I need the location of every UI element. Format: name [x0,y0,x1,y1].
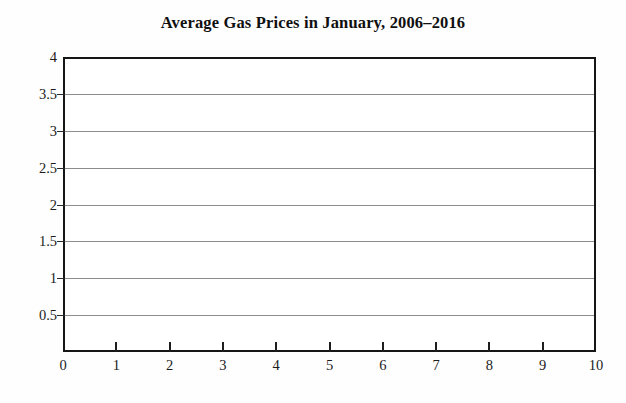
x-axis-tick [115,342,117,352]
x-axis-tick [222,342,224,352]
x-axis-labels: 12345678910 [0,358,626,386]
data-series-layer [65,59,594,350]
y-axis-labels: 43.532.521.510.5 [0,0,57,403]
y-axis-tick-label: 0.5 [7,308,57,323]
y-axis-tick-label: 1 [7,271,57,286]
x-axis-tick-label: 8 [469,358,509,373]
x-axis-tick-label: 7 [416,358,456,373]
y-axis-tick-label: 2.5 [7,161,57,176]
x-axis-tick [382,342,384,352]
x-axis-tick-label: 2 [150,358,190,373]
x-axis-tick-label: 4 [256,358,296,373]
x-axis-tick [435,342,437,352]
x-axis-tick [329,342,331,352]
y-axis-tick [57,241,65,242]
plot-area [63,57,596,352]
y-axis-tick-label: 4 [7,50,57,65]
y-axis-tick-label: 3 [7,124,57,139]
x-axis-tick-label: 6 [363,358,403,373]
y-axis-tick [57,131,65,132]
y-axis-tick [57,205,65,206]
axis-origin-label: 0 [43,358,83,373]
x-axis-tick-label: 3 [203,358,243,373]
y-axis-tick [57,278,65,279]
y-axis-tick-label: 1.5 [7,234,57,249]
y-axis-tick [57,315,65,316]
y-axis-tick [57,94,65,95]
x-axis-tick-label: 1 [96,358,136,373]
chart-figure: Average Gas Prices in January, 2006–2016… [0,0,626,403]
y-axis-tick-label: 2 [7,198,57,213]
x-axis-tick-label: 5 [310,358,350,373]
x-axis-tick [542,342,544,352]
x-axis-tick-label: 10 [576,358,616,373]
x-axis-tick [169,342,171,352]
x-axis-tick [275,342,277,352]
x-axis-tick-label: 9 [523,358,563,373]
y-axis-tick [57,168,65,169]
x-axis-tick [488,342,490,352]
chart-title: Average Gas Prices in January, 2006–2016 [0,13,626,33]
y-axis-tick-label: 3.5 [7,87,57,102]
